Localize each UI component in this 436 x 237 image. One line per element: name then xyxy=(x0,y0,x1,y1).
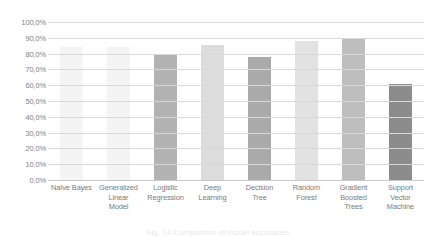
x-axis-category-label: Naïve Bayes xyxy=(48,183,94,193)
bar xyxy=(201,45,223,180)
bar xyxy=(248,57,270,180)
x-axis-category-label: LogisticRegression xyxy=(142,183,188,202)
x-axis-category-label: DeepLearning xyxy=(189,183,235,202)
gridline xyxy=(48,117,424,118)
bar xyxy=(342,38,364,180)
figure-caption: Fig. 14 Comparison of model accuracies xyxy=(0,228,436,237)
y-axis-tick-labels: 100,0%90,0%80,0%70,0%60,0%50,0%40,0%30,0… xyxy=(0,22,46,180)
gridline xyxy=(48,22,424,23)
y-axis-tick-label: 0,0% xyxy=(2,176,46,185)
x-axis-category-label: RandomForest xyxy=(283,183,329,202)
gridline xyxy=(48,133,424,134)
y-axis-tick-label: 40,0% xyxy=(2,112,46,121)
x-axis-label-line: Linear xyxy=(95,193,141,203)
x-axis-label-line: Gradient xyxy=(330,183,376,193)
bar-chart: 100,0%90,0%80,0%70,0%60,0%50,0%40,0%30,0… xyxy=(0,0,436,237)
gridline xyxy=(48,101,424,102)
y-axis-tick-label: 30,0% xyxy=(2,128,46,137)
gridline xyxy=(48,164,424,165)
x-axis-label-line: Forest xyxy=(283,193,329,203)
gridline xyxy=(48,38,424,39)
y-axis-tick-label: 80,0% xyxy=(2,49,46,58)
x-axis-label-line: Naïve Bayes xyxy=(48,183,94,193)
x-axis-label-line: Regression xyxy=(142,193,188,203)
x-axis-label-line: Logistic xyxy=(142,183,188,193)
y-axis-tick-label: 20,0% xyxy=(2,144,46,153)
gridline xyxy=(48,54,424,55)
x-axis-label-line: Tree xyxy=(236,193,282,203)
plot-area xyxy=(48,22,424,180)
y-axis-tick-label: 90,0% xyxy=(2,33,46,42)
x-axis-category-label: DecisionTree xyxy=(236,183,282,202)
y-axis-tick-label: 60,0% xyxy=(2,81,46,90)
gridline xyxy=(48,148,424,149)
x-axis-category-labels: Naïve BayesGeneralizedLinearModelLogisti… xyxy=(48,183,424,229)
gridline xyxy=(48,69,424,70)
x-axis-category-label: GeneralizedLinearModel xyxy=(95,183,141,212)
y-axis-tick-label: 100,0% xyxy=(2,18,46,27)
x-axis-label-line: Boosted xyxy=(330,193,376,203)
x-axis-label-line: Support xyxy=(377,183,423,193)
x-axis-label-line: Learning xyxy=(189,193,235,203)
x-axis-label-line: Deep xyxy=(189,183,235,193)
y-axis-tick-label: 10,0% xyxy=(2,160,46,169)
x-axis-category-label: GradientBoostedTrees xyxy=(330,183,376,212)
x-axis-label-line: Model xyxy=(95,202,141,212)
y-axis-tick-label: 50,0% xyxy=(2,97,46,106)
x-axis-label-line: Trees xyxy=(330,202,376,212)
gridline xyxy=(48,180,424,181)
x-axis-label-line: Machine xyxy=(377,202,423,212)
bar xyxy=(107,47,129,180)
y-axis-tick-label: 70,0% xyxy=(2,65,46,74)
x-axis-label-line: Generalized xyxy=(95,183,141,193)
x-axis-label-line: Vector xyxy=(377,193,423,203)
bar xyxy=(60,47,82,180)
gridline xyxy=(48,85,424,86)
bar xyxy=(295,41,317,180)
x-axis-label-line: Random xyxy=(283,183,329,193)
x-axis-label-line: Decision xyxy=(236,183,282,193)
x-axis-category-label: SupportVectorMachine xyxy=(377,183,423,212)
